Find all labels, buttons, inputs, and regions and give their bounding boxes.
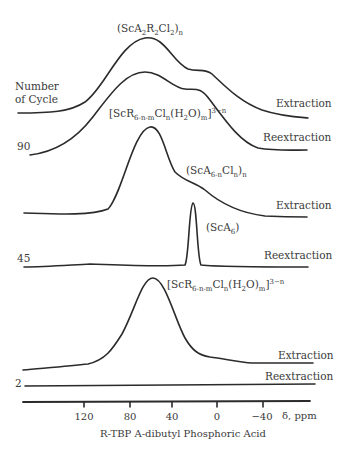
cycle-label-90: 90 [17, 141, 30, 152]
y-axis-title-line2: of Cycle [15, 94, 58, 105]
spectra-plot [0, 0, 340, 456]
x-tick-80: 80 [124, 411, 137, 422]
label-extraction-3: Extraction [278, 350, 334, 361]
x-axis-ticks [84, 402, 263, 407]
curve-cycle2-extraction [23, 278, 313, 370]
x-tick-0: 0 [214, 411, 220, 422]
cycle-label-2: 2 [15, 378, 22, 389]
label-extraction-1: Extraction [276, 98, 332, 109]
x-tick-40: 40 [166, 411, 179, 422]
peak-label-scA6: (ScA6) [206, 222, 239, 233]
cycle-label-45: 45 [17, 253, 30, 264]
label-extraction-2: Extraction [276, 200, 332, 211]
label-reextraction-3: Reextraction [265, 371, 333, 382]
peak-label-scR-complex-top: [ScR6-n-mCln(H2O)m]3−n [109, 108, 226, 119]
x-axis-line [23, 401, 310, 402]
peak-label-scR-complex-bottom: [ScR6-n-mCln(H2O)m]3−n [167, 279, 284, 290]
x-tick-120: 120 [74, 411, 93, 422]
peak-label-scA2R2Cl2: (ScA2R2Cl2)n [117, 23, 183, 34]
curve-cycle2-reextraction [25, 384, 315, 386]
label-reextraction-2: Reextraction [264, 250, 332, 261]
axis-caption: R-TBP A-dibutyl Phosphoric Acid [100, 429, 266, 439]
peak-label-scA6nCln: (ScA6-nCln)n [186, 165, 247, 176]
label-reextraction-1: Reextraction [263, 132, 331, 143]
x-tick-minus40: −40 [251, 411, 272, 422]
y-axis-title-line1: Number [15, 81, 59, 92]
x-axis-unit: δ, ppm [282, 411, 317, 421]
